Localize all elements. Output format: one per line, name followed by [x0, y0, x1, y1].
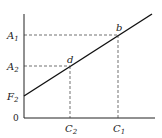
label-a2: A2	[6, 61, 19, 74]
point-d-label: d	[67, 54, 73, 65]
origin-label: 0	[13, 113, 19, 123]
label-c1: C1	[113, 123, 125, 136]
linear-graph-line	[24, 14, 152, 96]
label-a1: A1	[6, 30, 19, 43]
point-b-label: b	[116, 22, 122, 33]
label-f2: F2	[6, 91, 19, 104]
diagram: A1 A2 F2 0 C2 C1 b d	[0, 0, 162, 138]
label-c2: C2	[65, 123, 78, 136]
